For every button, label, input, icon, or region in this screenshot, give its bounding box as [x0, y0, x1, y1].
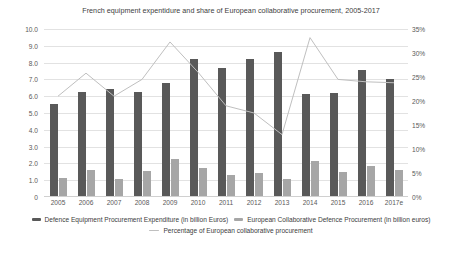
bar-category-group — [100, 29, 128, 197]
legend-swatch-icon — [149, 230, 159, 232]
legend-label: Percentage of European collaborative pro… — [163, 227, 312, 234]
x-axis-line — [44, 196, 408, 197]
legend-swatch-icon — [32, 218, 41, 221]
legend-row-secondary: Percentage of European collaborative pro… — [0, 227, 462, 234]
y-axis-left-tick: 3.0 — [12, 143, 38, 150]
x-axis-tick-label: 2013 — [268, 199, 296, 206]
bar — [255, 173, 263, 197]
y-axis-right-tick: 5% — [412, 170, 440, 177]
bar-group — [44, 29, 408, 197]
bar-category-group — [268, 29, 296, 197]
bar-category-group — [128, 29, 156, 197]
bar-category-group — [212, 29, 240, 197]
legend-label: European Collaborative Defence Procureme… — [247, 216, 430, 223]
bar — [330, 93, 338, 197]
y-axis-right-tick: 10% — [412, 146, 440, 153]
bar — [190, 59, 198, 197]
x-axis-tick-label: 2008 — [128, 199, 156, 206]
bar — [106, 89, 114, 197]
legend-swatch-icon — [234, 218, 243, 221]
y-axis-left-tick: 4.0 — [12, 126, 38, 133]
bar — [134, 92, 142, 197]
y-axis-left-tick: 6.0 — [12, 93, 38, 100]
bar-category-group — [324, 29, 352, 197]
x-axis-tick-label: 2005 — [44, 199, 72, 206]
bar — [78, 92, 86, 197]
bar — [218, 68, 226, 197]
y-axis-right-tick: 25% — [412, 74, 440, 81]
y-axis-right-tick: 30% — [412, 50, 440, 57]
x-axis-tick-label: 2014 — [296, 199, 324, 206]
y-axis-right-tick: 35% — [412, 26, 440, 33]
bar — [246, 59, 254, 197]
x-axis-tick-label: 2012 — [240, 199, 268, 206]
chart-title: French equipment expentidure and share o… — [0, 6, 462, 15]
legend-item[interactable]: Percentage of European collaborative pro… — [149, 227, 312, 234]
bar-category-group — [72, 29, 100, 197]
bar — [274, 52, 282, 197]
x-axis-tick-label: 2016 — [352, 199, 380, 206]
x-axis-tick-label: 2011 — [212, 199, 240, 206]
bar — [162, 83, 170, 197]
y-axis-left-tick: 2.0 — [12, 160, 38, 167]
y-axis-right-tick: 20% — [412, 98, 440, 105]
y-axis-right-tick: 15% — [412, 122, 440, 129]
x-axis-tick-label: 2006 — [72, 199, 100, 206]
x-axis-tick-label: 2007 — [100, 199, 128, 206]
x-axis-tick-label: 2010 — [184, 199, 212, 206]
legend-row-primary: Defence Equipment Procurement Expenditur… — [0, 216, 462, 223]
y-axis-left-tick: 0 — [12, 194, 38, 201]
bar-category-group — [44, 29, 72, 197]
y-axis-left-tick: 9.0 — [12, 42, 38, 49]
bar — [199, 168, 207, 197]
chart-container: French equipment expentidure and share o… — [0, 0, 462, 254]
bar — [283, 179, 291, 197]
x-axis-labels: 2005200620072008200920102011201220132014… — [44, 199, 408, 206]
y-axis-left-tick: 7.0 — [12, 76, 38, 83]
bar — [302, 94, 310, 197]
bar — [50, 104, 58, 197]
chart-legend: Defence Equipment Procurement Expenditur… — [0, 216, 462, 238]
bar — [395, 170, 403, 197]
x-axis-tick-label: 2015 — [324, 199, 352, 206]
legend-item[interactable]: Defence Equipment Procurement Expenditur… — [32, 216, 229, 223]
bar — [339, 172, 347, 197]
bar — [87, 170, 95, 197]
bar — [227, 175, 235, 197]
bar — [386, 79, 394, 197]
bar-category-group — [380, 29, 408, 197]
y-axis-right-tick: 0% — [412, 194, 440, 201]
bar — [59, 178, 67, 197]
y-axis-left-tick: 1.0 — [12, 177, 38, 184]
bar-category-group — [156, 29, 184, 197]
bar — [311, 161, 319, 197]
bar — [171, 159, 179, 197]
y-axis-left-tick: 8.0 — [12, 59, 38, 66]
x-axis-tick-label: 2017e — [380, 199, 408, 206]
y-axis-left-tick: 10.0 — [12, 26, 38, 33]
bar — [367, 166, 375, 197]
plot-area — [44, 29, 408, 197]
bar-category-group — [296, 29, 324, 197]
bar — [143, 171, 151, 197]
legend-label: Defence Equipment Procurement Expenditur… — [45, 216, 229, 223]
bar-category-group — [352, 29, 380, 197]
bar-category-group — [240, 29, 268, 197]
y-axis-left-tick: 5.0 — [12, 110, 38, 117]
bar — [115, 179, 123, 197]
legend-item[interactable]: European Collaborative Defence Procureme… — [234, 216, 430, 223]
bar — [358, 70, 366, 197]
x-axis-tick-label: 2009 — [156, 199, 184, 206]
bar-category-group — [184, 29, 212, 197]
